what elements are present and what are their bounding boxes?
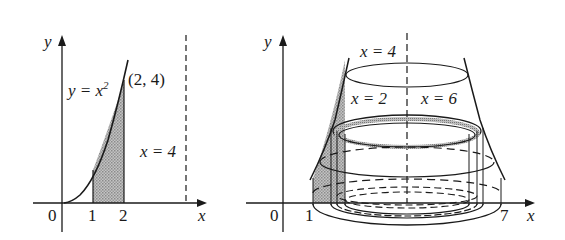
tick-label-1: 1 (88, 206, 97, 225)
dashed-line-label: x = 4 (139, 142, 177, 161)
x-axis-label: x (526, 206, 535, 225)
curve-label-base: y = x (66, 81, 104, 100)
diagram-canvas: y x 0 1 2 y = x2 (2, 4) x = 4 (0, 0, 565, 240)
right-curve-label: x = 6 (420, 89, 458, 108)
right-figure: y x 0 1 7 x = 4 x = 2 x = 6 (246, 32, 535, 232)
y-axis-arrow-icon (279, 35, 287, 46)
left-curve-label: x = 2 (350, 89, 388, 108)
origin-label: 0 (270, 206, 279, 225)
tick-label-1: 1 (305, 206, 314, 225)
y-axis-label: y (42, 32, 52, 51)
shaded-region-left (313, 60, 345, 203)
tick-label-2: 2 (119, 206, 128, 225)
tick-label-7: 7 (500, 206, 509, 225)
point-label: (2, 4) (128, 70, 165, 89)
x-axis-label: x (197, 206, 206, 225)
origin-label: 0 (48, 206, 57, 225)
curve-label: y = x2 (66, 79, 109, 100)
axis-of-rotation-label: x = 4 (359, 42, 397, 61)
left-figure: y x 0 1 2 y = x2 (2, 4) x = 4 (33, 32, 207, 232)
curve-label-exponent: 2 (103, 79, 109, 91)
right-outer-curve (464, 58, 505, 180)
y-axis-arrow-icon (58, 35, 66, 46)
y-axis-label: y (262, 32, 272, 51)
